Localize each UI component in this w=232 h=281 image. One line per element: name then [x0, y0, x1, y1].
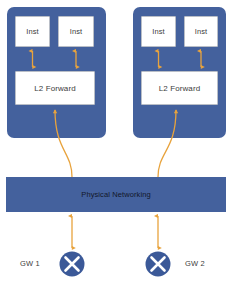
l2-forward-box-right[interactable]: L2 Forward	[141, 71, 218, 105]
instance-box-right-2[interactable]: Inst	[184, 16, 218, 47]
gateway-label-1: GW 1	[20, 259, 40, 268]
l2-forward-label: L2 Forward	[34, 84, 75, 93]
instance-label: Inst	[152, 27, 165, 36]
instance-box-right-1[interactable]: Inst	[141, 16, 176, 47]
instance-box-left-2[interactable]: Inst	[58, 16, 94, 47]
gateway-node-2[interactable]	[145, 251, 171, 277]
gateway-label-2: GW 2	[185, 259, 205, 268]
physical-networking-label: Physical Networking	[81, 190, 150, 199]
gateway-x-icon	[59, 251, 85, 277]
instance-label: Inst	[26, 27, 39, 36]
network-topology-diagram: Inst Inst L2 Forward Inst Inst L2 Forwar…	[0, 0, 232, 281]
gateway-node-1[interactable]	[59, 251, 85, 277]
physical-networking-bar[interactable]: Physical Networking	[6, 177, 226, 212]
instance-box-left-1[interactable]: Inst	[15, 16, 50, 47]
gateway-x-icon	[145, 251, 171, 277]
l2-forward-label: L2 Forward	[159, 84, 200, 93]
instance-label: Inst	[195, 27, 208, 36]
instance-label: Inst	[70, 27, 83, 36]
l2-forward-box-left[interactable]: L2 Forward	[15, 71, 95, 105]
